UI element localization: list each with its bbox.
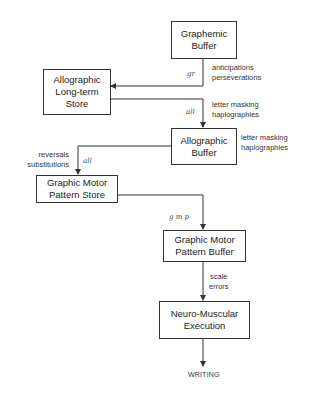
neuro-muscular-line2: Execution bbox=[184, 320, 226, 332]
error-label-gmp-store: reversals substitutions bbox=[17, 150, 69, 169]
neuro-muscular-line1: Neuro-Muscular bbox=[171, 308, 239, 320]
error-label-lt-store: letter masking haplographies bbox=[212, 100, 259, 119]
allographic-buffer-line1: Allographic bbox=[181, 135, 228, 147]
gmp-buffer-line1: Graphic Motor bbox=[174, 234, 234, 246]
edge-label-gmp: g m p bbox=[169, 213, 189, 223]
error-label-gmp-buffer: scale errors bbox=[209, 272, 229, 291]
error-label-graphemic: anticipations perseverations bbox=[212, 63, 261, 82]
allographic-lt-store-line2: Long-term bbox=[55, 86, 98, 98]
gmp-buffer-box: Graphic Motor Pattern Buffer bbox=[163, 230, 246, 262]
gmp-store-line2: Pattern Store bbox=[49, 189, 105, 201]
graphemic-buffer-box: Graphemic Buffer bbox=[171, 21, 237, 59]
allographic-buffer-line2: Buffer bbox=[191, 147, 216, 159]
neuro-muscular-box: Neuro-Muscular Execution bbox=[159, 301, 250, 339]
output-writing-label: WRITING bbox=[188, 370, 220, 380]
gmp-store-box: Graphic Motor Pattern Store bbox=[36, 175, 118, 203]
graphemic-buffer-line2: Buffer bbox=[191, 40, 216, 52]
edge-label-all-2: all bbox=[83, 157, 92, 167]
error-label-allo-buffer: letter masking haplographies bbox=[241, 133, 288, 152]
edge-label-all-1: all bbox=[186, 108, 195, 118]
allographic-buffer-box: Allographic Buffer bbox=[171, 128, 237, 165]
edge-label-gr: gr bbox=[187, 70, 195, 80]
graphemic-buffer-line1: Graphemic bbox=[181, 28, 227, 40]
gmp-store-line1: Graphic Motor bbox=[47, 177, 107, 189]
allographic-lt-store-line1: Allographic bbox=[54, 74, 101, 86]
allographic-lt-store-box: Allographic Long-term Store bbox=[43, 69, 111, 115]
allographic-lt-store-line3: Store bbox=[66, 98, 89, 110]
gmp-buffer-line2: Pattern Buffer bbox=[175, 246, 233, 258]
